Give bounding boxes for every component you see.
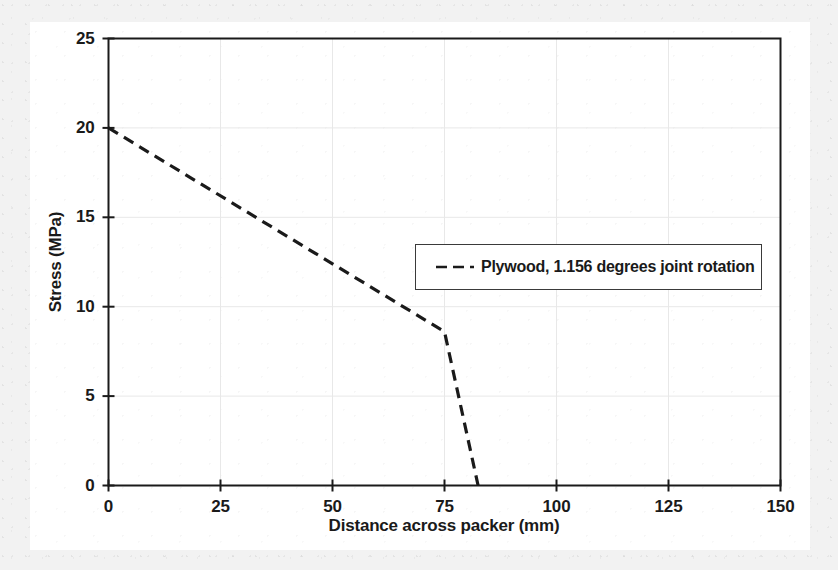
x-tick-label: 0 (104, 497, 113, 517)
y-tick-label: 10 (63, 297, 95, 317)
x-tick-label: 50 (323, 497, 342, 517)
chart-legend: Plywood, 1.156 degrees joint rotation (415, 244, 762, 290)
y-tick-label: 15 (63, 207, 95, 227)
x-tick-label: 100 (543, 497, 571, 517)
dashed-line-marker-icon (436, 260, 474, 274)
y-axis-title: Stress (MPa) (46, 132, 66, 392)
y-tick-label: 0 (63, 476, 95, 496)
legend-entry: Plywood, 1.156 degrees joint rotation (436, 258, 754, 276)
legend-entry-label: Plywood, 1.156 degrees joint rotation (481, 258, 754, 276)
y-tick-label: 5 (63, 386, 95, 406)
x-tick-label: 125 (655, 497, 683, 517)
chart-container: 0255075100125150 0510152025 Distance acr… (0, 0, 838, 570)
x-tick-label: 150 (767, 497, 795, 517)
x-tick-label: 25 (211, 497, 230, 517)
y-tick-label: 20 (63, 118, 95, 138)
x-axis-title: Distance across packer (mm) (108, 516, 780, 536)
y-tick-label: 25 (63, 29, 95, 49)
x-tick-label: 75 (435, 497, 454, 517)
